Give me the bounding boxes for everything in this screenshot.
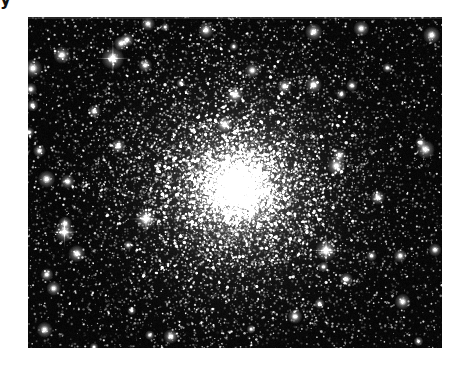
figure-page: y: [0, 0, 466, 372]
caption-text-fragment: y: [0, 0, 11, 8]
starfield-canvas: [28, 17, 442, 348]
globular-cluster-image: [28, 17, 442, 348]
